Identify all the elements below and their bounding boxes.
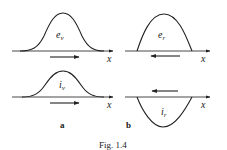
panel-a-top-voltage-wave: ev x bbox=[12, 13, 113, 64]
wave-label: ir bbox=[161, 106, 167, 119]
panel-label-a: a bbox=[60, 120, 65, 130]
wave-label: iv bbox=[59, 79, 66, 92]
wave-label: ev bbox=[56, 29, 64, 42]
axis-label-x: x bbox=[106, 53, 112, 64]
arch-pulse-curve bbox=[137, 14, 192, 51]
wave-label: er bbox=[158, 29, 165, 42]
panel-b-top-voltage-wave: er x bbox=[125, 14, 210, 64]
figure-caption: Fig. 1.4 bbox=[99, 140, 127, 150]
panel-a-bottom-current-wave: iv x bbox=[12, 71, 113, 110]
axis-label-x: x bbox=[200, 99, 206, 110]
panel-b-bottom-current-wave: ir x bbox=[125, 91, 210, 127]
axis-label-x: x bbox=[200, 53, 206, 64]
traveling-wave-diagram: ev x er x iv x ir x a b Fig. 1.4 bbox=[0, 0, 227, 150]
bell-pulse-curve bbox=[20, 13, 104, 51]
panel-label-b: b bbox=[126, 120, 131, 130]
axis-label-x: x bbox=[106, 99, 112, 110]
